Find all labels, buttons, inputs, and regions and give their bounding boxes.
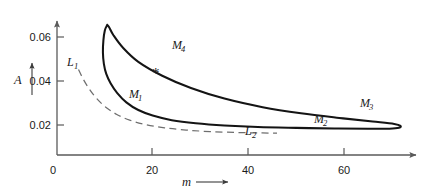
x-tick-label-40: 40 (242, 164, 254, 176)
y-tick-label-006: 0.06 (30, 31, 51, 43)
y-tick-group (57, 37, 64, 125)
annotation-L1-subscript: 1 (74, 61, 78, 71)
series-M-loop (103, 25, 401, 129)
asterisk-marker: * (152, 65, 160, 81)
y-tick-label-002: 0.02 (30, 119, 51, 131)
annotation-M3: M 3 (359, 96, 373, 112)
annotation-M1-subscript: 1 (138, 93, 142, 103)
annotation-M4: M 4 (171, 38, 186, 54)
y-axis-title: A (13, 73, 22, 87)
annotation-M3-subscript: 3 (368, 102, 373, 112)
x-tick-group (152, 148, 344, 155)
x-tick-label-20: 20 (146, 164, 158, 176)
annotation-L1: L 1 (66, 55, 78, 71)
annotation-M4-subscript: 4 (181, 44, 186, 54)
axis-group (57, 21, 416, 155)
chart-canvas: 0.06 0.04 0.02 0 20 40 60 A m * (0, 0, 425, 192)
x-axis-title-group: m (182, 175, 228, 189)
annotation-L2-label: L (244, 124, 252, 138)
figure-root: 0.06 0.04 0.02 0 20 40 60 A m * (0, 0, 425, 192)
annotation-L2-subscript: 2 (252, 130, 257, 140)
annotation-L1-label: L (66, 55, 74, 69)
x-tick-label-0: 0 (50, 164, 56, 176)
x-axis-title: m (182, 175, 191, 189)
annotation-M2-subscript: 2 (323, 118, 328, 128)
annotation-M2: M 2 (313, 112, 328, 128)
y-tick-label-004: 0.04 (30, 75, 51, 87)
annotation-M1: M 1 (128, 87, 142, 103)
x-tick-label-60: 60 (338, 164, 350, 176)
